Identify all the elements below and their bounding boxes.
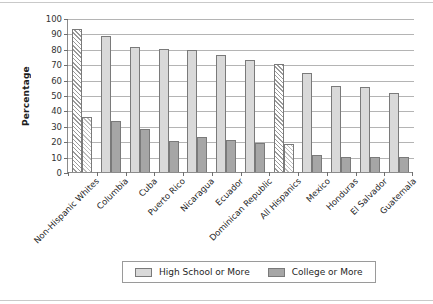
bar <box>274 64 284 172</box>
x-axis-tick-mark <box>356 172 357 176</box>
y-axis-tick-label: 30 <box>51 122 62 132</box>
y-axis-tick-label: 100 <box>46 14 62 24</box>
legend-entry: College or More <box>268 267 363 277</box>
bar <box>82 117 92 172</box>
bar-group <box>269 19 298 172</box>
x-axis-tick-mark <box>212 172 213 176</box>
x-axis-tick-mark <box>298 172 299 176</box>
bar <box>341 157 351 172</box>
x-axis-tick-mark <box>68 172 69 176</box>
x-axis-tick-mark <box>126 172 127 176</box>
y-axis-tick-label: 50 <box>51 91 62 101</box>
plot-area: 1009080706050403020100 <box>67 19 413 173</box>
bar-group <box>126 19 155 172</box>
x-axis-tick-mark <box>412 172 413 176</box>
figure-bottom-rule <box>0 300 433 301</box>
bar-groups <box>68 19 413 172</box>
bar <box>389 93 399 172</box>
bar <box>360 87 370 172</box>
bar-chart-figure: Percentage 1009080706050403020100 Non-Hi… <box>0 0 433 304</box>
bar <box>197 137 207 172</box>
x-axis-tick-mark <box>269 172 270 176</box>
legend-swatch <box>268 268 285 277</box>
x-axis-tick-mark <box>97 172 98 176</box>
bar <box>187 50 197 172</box>
x-axis-category-label: Cuba <box>136 176 159 199</box>
y-axis-tick-label: 80 <box>51 45 62 55</box>
y-axis-tick-label: 90 <box>51 29 62 39</box>
x-axis-tick-mark <box>183 172 184 176</box>
bar-group <box>241 19 270 172</box>
bar-group <box>154 19 183 172</box>
legend-label: College or More <box>292 267 363 277</box>
x-axis-tick-mark <box>327 172 328 176</box>
bar <box>72 29 82 172</box>
bar <box>245 60 255 172</box>
bar-group <box>384 19 413 172</box>
bar <box>140 129 150 172</box>
bar <box>159 49 169 172</box>
y-axis-tick-label: 40 <box>51 106 62 116</box>
legend-label: High School or More <box>159 267 250 277</box>
bar <box>101 36 111 172</box>
plot-wrapper: 1009080706050403020100 <box>67 19 413 173</box>
bar-group <box>97 19 126 172</box>
bar-group <box>183 19 212 172</box>
legend-entry: High School or More <box>135 267 250 277</box>
bar <box>302 73 312 172</box>
x-axis-tick-mark <box>384 172 385 176</box>
bar <box>111 121 121 172</box>
y-axis-tick-label: 70 <box>51 60 62 70</box>
bar <box>169 141 179 172</box>
chart-legend: High School or MoreCollege or More <box>122 261 376 283</box>
bar <box>130 47 140 172</box>
y-axis-tick-label: 60 <box>51 76 62 86</box>
y-axis-title: Percentage <box>16 46 36 146</box>
x-axis-category-label: Non-Hispanic Whites <box>32 176 101 245</box>
legend-swatch <box>135 268 152 277</box>
bar-group <box>68 19 97 172</box>
bar-group <box>356 19 385 172</box>
bar <box>226 140 236 172</box>
bar <box>216 55 226 172</box>
bar-group <box>298 19 327 172</box>
bar <box>284 144 294 172</box>
bar-group <box>212 19 241 172</box>
y-axis-tick-label: 20 <box>51 137 62 147</box>
y-axis-tick-label: 10 <box>51 153 62 163</box>
bar <box>312 155 322 172</box>
bar <box>370 157 380 172</box>
figure-top-rule <box>0 2 433 3</box>
bar <box>255 143 265 172</box>
x-axis-tick-mark <box>241 172 242 176</box>
bar <box>399 157 409 172</box>
x-axis-tick-mark <box>154 172 155 176</box>
bar-group <box>327 19 356 172</box>
bar <box>331 86 341 172</box>
y-axis-tick-label: 0 <box>57 168 62 178</box>
